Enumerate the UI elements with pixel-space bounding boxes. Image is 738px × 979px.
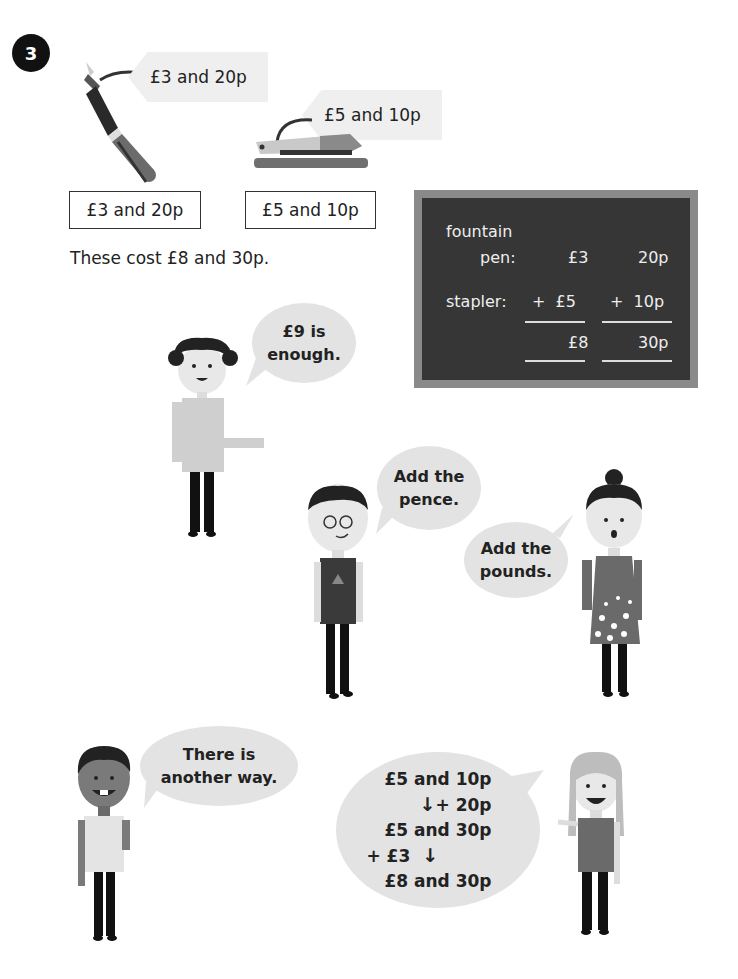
step-start: £5 and 10p [384, 767, 491, 791]
addition-steps: £5 and 10p ↓+ 20p £5 and 30p + £3 ↓ £8 a… [384, 767, 491, 893]
speech-bubble-tail [140, 782, 160, 808]
chalk-underline [602, 321, 672, 323]
speech-text: £9 is [283, 320, 326, 343]
question-number-badge: 3 [12, 34, 50, 72]
chalk-underline [602, 360, 672, 362]
speech-bubble-tail [246, 358, 270, 386]
chalk-pen-pounds: £3 [568, 248, 588, 267]
chalkboard-surface: fountain pen: £3 20p stapler: + £5 + 10p… [422, 198, 690, 380]
speech-text: Add the [394, 465, 465, 488]
chalk-total-pounds: £8 [568, 333, 588, 352]
speech-text: another way. [161, 766, 278, 789]
chalk-stapler-pounds: + £5 [532, 292, 576, 311]
down-arrow-icon: ↓ [422, 844, 438, 866]
total-cost-caption: These cost £8 and 30p. [70, 248, 269, 268]
pen-price-tag: £3 and 20p [128, 52, 268, 102]
step-add-pence: ↓+ 20p [420, 791, 492, 818]
speech-bubble-tail [376, 508, 398, 534]
speech-bubble-blonde-girl: £5 and 10p ↓+ 20p £5 and 30p + £3 ↓ £8 a… [336, 752, 540, 908]
chalkboard: fountain pen: £3 20p stapler: + £5 + 10p… [414, 190, 698, 388]
stapler-icon [250, 112, 380, 172]
speech-text: Add the [481, 537, 552, 560]
down-arrow-icon: ↓ [420, 793, 436, 815]
pen-price-tag-text: £3 and 20p [150, 67, 247, 87]
speech-text: pounds. [480, 560, 552, 583]
chalk-underline [525, 321, 585, 323]
chalk-label-pen: pen: [480, 248, 516, 267]
step-middle: £5 and 30p [384, 818, 491, 842]
speech-text: There is [183, 743, 255, 766]
blonde-girl-illustration [552, 746, 632, 942]
chalk-stapler-pence: + 10p [610, 292, 664, 311]
speech-bubble-tail [552, 514, 574, 538]
speech-bubble-dark-boy: There is another way. [140, 726, 298, 806]
speech-text: pence. [399, 488, 459, 511]
stapler-price-box: £5 and 10p [245, 191, 376, 229]
girl-with-bun-illustration [578, 468, 658, 700]
chalk-total-pence: 30p [638, 333, 669, 352]
speech-bubble-tail [512, 770, 544, 800]
step-result: £8 and 30p [384, 869, 491, 893]
chalk-pen-pence: 20p [638, 248, 669, 267]
chalk-underline [525, 360, 585, 362]
speech-text: enough. [267, 343, 341, 366]
boy-with-glasses-illustration [300, 480, 380, 702]
chalk-label-stapler: stapler: [446, 292, 507, 311]
stapler-price-box-text: £5 and 10p [262, 200, 359, 220]
chalk-label-fountain: fountain [446, 222, 512, 241]
pen-price-box-text: £3 and 20p [87, 200, 184, 220]
step-add-pounds: + £3 ↓ [366, 842, 438, 869]
pen-price-box: £3 and 20p [69, 191, 201, 229]
